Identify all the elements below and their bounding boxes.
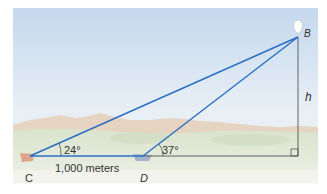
bushes <box>210 134 290 146</box>
triangle-diagram: 24° 37° 1,000 meters C D B h <box>0 0 327 194</box>
height-label: h <box>305 90 312 104</box>
point-b-label: B <box>304 28 311 39</box>
angle-d-label: 37° <box>162 144 179 156</box>
point-c-label: C <box>25 172 33 184</box>
observer-c-icon <box>20 153 34 162</box>
angle-c-label: 24° <box>64 144 81 156</box>
observer-d-icon <box>133 154 152 161</box>
point-d-label: D <box>140 172 148 184</box>
distance-label: 1,000 meters <box>55 162 120 174</box>
